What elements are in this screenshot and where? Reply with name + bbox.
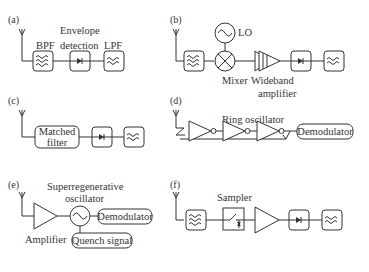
mixer-label: Mixer xyxy=(222,75,248,86)
amplifier-icon xyxy=(34,203,57,229)
receiver-architectures-diagram: (a) BPF Envelope detection LPF (b) LO Mi… xyxy=(0,0,369,272)
panel-a-label: (a) xyxy=(8,14,19,26)
antenna-icon xyxy=(173,110,179,116)
lpf-label: LPF xyxy=(104,40,122,51)
envelope-label-2: detection xyxy=(60,40,99,51)
panel-e: (e) Amplifier Superregenerative oscillat… xyxy=(8,179,153,248)
antenna-icon xyxy=(173,192,179,198)
wideband-amplifier-icon xyxy=(255,51,280,71)
amplifier-label: Amplifier xyxy=(25,234,67,245)
sampler-switch-icon xyxy=(223,208,244,230)
antenna-icon xyxy=(19,110,25,116)
lpf-icon xyxy=(322,210,342,230)
bpf-icon xyxy=(186,210,206,230)
antenna-icon xyxy=(19,29,25,35)
panel-d-label: (d) xyxy=(170,95,182,107)
envelope-label-1: Envelope xyxy=(60,25,100,36)
lpf-icon xyxy=(104,51,124,71)
panel-a: (a) BPF Envelope detection LPF xyxy=(8,14,124,71)
filter-label: filter xyxy=(47,137,68,148)
demodulator-label: Demodulator xyxy=(97,211,153,222)
panel-f: (f) Sampler xyxy=(170,179,342,233)
bpf-label: BPF xyxy=(36,40,55,51)
inverter-icon xyxy=(189,121,216,141)
panel-c: (c) Matched filter xyxy=(8,95,144,148)
matched-label: Matched xyxy=(39,126,76,137)
panel-d: (d) Ring oscillator Demodulator xyxy=(170,95,353,141)
lo-label: LO xyxy=(238,27,252,38)
amplifier-label: amplifier xyxy=(258,88,297,99)
bpf-icon xyxy=(184,51,204,71)
diode-icon xyxy=(291,51,311,71)
diode-icon xyxy=(70,51,90,71)
panel-b-label: (b) xyxy=(170,14,182,26)
panel-b: (b) LO Mixer Wideband amplifier xyxy=(170,14,344,99)
sampler-label: Sampler xyxy=(217,192,252,203)
antenna-icon xyxy=(173,29,179,35)
panel-f-label: (f) xyxy=(170,179,180,191)
sro-label-1: Superregenerative xyxy=(47,181,124,192)
sro-label-2: oscillator xyxy=(65,193,105,204)
ring-oscillator-label: Ring oscillator xyxy=(222,114,285,125)
diode-icon xyxy=(92,127,112,147)
wideband-label: Wideband xyxy=(251,75,294,86)
antenna-icon xyxy=(19,192,25,198)
panel-e-label: (e) xyxy=(8,179,19,191)
panel-c-label: (c) xyxy=(8,95,19,107)
bpf-icon xyxy=(33,51,53,71)
quench-label: Quench signal xyxy=(72,235,132,246)
demodulator-label: Demodulator xyxy=(297,126,353,137)
diode-icon xyxy=(289,210,309,230)
lpf-icon xyxy=(124,127,144,147)
amplifier-icon xyxy=(255,207,279,233)
lpf-icon xyxy=(324,51,344,71)
